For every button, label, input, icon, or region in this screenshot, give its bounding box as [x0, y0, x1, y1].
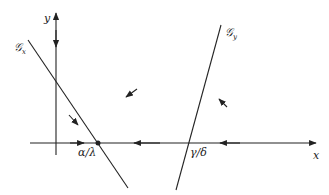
- equilibrium-gamma-delta-label: γ/δ: [190, 147, 207, 158]
- equilibrium-point-icon: [96, 141, 101, 146]
- flow-arrow-icon: [126, 89, 137, 97]
- phase-plane-diagram: y x 𝒢x 𝒢y α/λ γ/δ: [0, 0, 329, 195]
- nullcline-gy-symbol: 𝒢: [225, 26, 233, 39]
- x-axis-label: x: [313, 150, 319, 161]
- flow-arrow-icon: [69, 115, 78, 125]
- diagram-drawing: [0, 0, 329, 195]
- nullcline-gy: [176, 25, 221, 190]
- y-axis-label: y: [44, 13, 50, 24]
- flow-arrow-icon: [219, 99, 227, 107]
- nullcline-gy-label: 𝒢y: [225, 27, 237, 41]
- nullcline-gy-subscript: y: [233, 33, 237, 41]
- nullcline-gx-label: 𝒢x: [14, 42, 26, 56]
- nullcline-gx: [28, 40, 128, 188]
- equilibrium-alpha-lambda-label: α/λ: [78, 147, 96, 158]
- nullcline-gx-symbol: 𝒢: [14, 41, 22, 54]
- nullcline-gx-subscript: x: [22, 48, 26, 56]
